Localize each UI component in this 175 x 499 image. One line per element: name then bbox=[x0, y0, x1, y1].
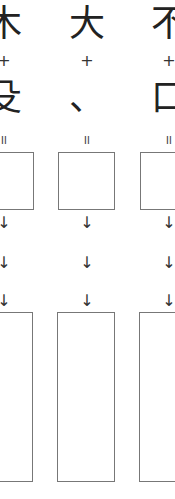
equals-sign: = bbox=[57, 132, 117, 148]
equals-sign: = bbox=[0, 132, 34, 148]
component-bottom-char: 殳 bbox=[0, 76, 34, 120]
answer-box[interactable] bbox=[0, 152, 34, 210]
down-arrow-icon: ↓ bbox=[139, 292, 175, 310]
down-arrow-icon: ↓ bbox=[0, 254, 34, 272]
component-bottom-char: 口 bbox=[139, 76, 175, 120]
down-arrow-icon: ↓ bbox=[139, 254, 175, 272]
component-top-char: 不 bbox=[139, 4, 175, 44]
down-arrow-icon: ↓ bbox=[0, 214, 34, 232]
writing-box[interactable] bbox=[139, 312, 175, 482]
component-top-char: 木 bbox=[0, 4, 34, 44]
down-arrow-icon: ↓ bbox=[0, 292, 34, 310]
down-arrow-icon: ↓ bbox=[57, 292, 117, 310]
equals-sign: = bbox=[139, 132, 175, 148]
component-bottom-char: 、 bbox=[57, 76, 117, 120]
component-top-char: 大 bbox=[57, 4, 117, 44]
answer-box[interactable] bbox=[140, 152, 175, 210]
plus-sign: + bbox=[139, 52, 175, 70]
plus-sign: + bbox=[0, 52, 34, 70]
down-arrow-icon: ↓ bbox=[57, 214, 117, 232]
down-arrow-icon: ↓ bbox=[139, 214, 175, 232]
column-1: 木 + 殳 = ↓ ↓ ↓ bbox=[0, 0, 34, 499]
down-arrow-icon: ↓ bbox=[57, 254, 117, 272]
column-3: 不 + 口 = ↓ ↓ ↓ bbox=[139, 0, 175, 499]
writing-box[interactable] bbox=[57, 312, 115, 482]
writing-box[interactable] bbox=[0, 312, 33, 482]
answer-box[interactable] bbox=[58, 152, 115, 210]
plus-sign: + bbox=[57, 52, 117, 70]
column-2: 大 + 、 = ↓ ↓ ↓ bbox=[57, 0, 117, 499]
